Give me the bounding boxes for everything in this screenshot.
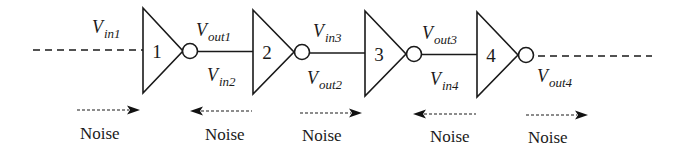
noise-label: Noise <box>430 127 470 146</box>
noise-label: Noise <box>205 125 245 144</box>
noise-label: Noise <box>302 126 342 145</box>
gate-number: 3 <box>374 44 384 65</box>
voltage-label-vout1: Vout1 <box>196 20 231 44</box>
noise-indicator-4: Noise <box>413 110 476 147</box>
noise-label: Noise <box>528 128 568 147</box>
voltage-label-vout3: Vout3 <box>422 23 458 47</box>
wires <box>33 50 652 56</box>
inverter-triangle-icon <box>143 8 183 93</box>
diagram-canvas: 1234 Vin1Vout1Vin2Vin3Vout2Vout3Vin4Vout… <box>0 0 686 154</box>
inverter-triangle-icon <box>365 11 406 96</box>
inverter-triangle-icon <box>253 10 294 94</box>
gate-number: 4 <box>486 45 496 66</box>
inversion-bubble-icon <box>407 47 422 62</box>
inversion-bubble-icon <box>183 44 198 59</box>
voltage-label-vout2: Vout2 <box>307 68 343 92</box>
noise-indicator-1: Noise <box>77 106 140 144</box>
voltage-label-vout4: Vout4 <box>537 66 573 90</box>
inverter-triangle-icon <box>477 12 518 97</box>
noise-indicator-3: Noise <box>300 109 362 146</box>
inversion-bubble-icon <box>295 45 310 60</box>
inverter-gate-4: 4 <box>477 12 534 97</box>
inverter-chain-diagram: 1234 Vin1Vout1Vin2Vin3Vout2Vout3Vin4Vout… <box>0 0 686 154</box>
voltage-label-vin1: Vin1 <box>92 17 121 41</box>
noise-label: Noise <box>80 124 120 143</box>
inverter-gate-2: 2 <box>253 10 310 94</box>
inversion-bubble-icon <box>519 48 534 63</box>
gate-number: 2 <box>262 42 272 63</box>
inverter-gate-1: 1 <box>143 8 198 93</box>
noise-indicator-2: Noise <box>190 107 252 145</box>
voltage-label-vin4: Vin4 <box>430 69 459 93</box>
inverter-gate-3: 3 <box>365 11 422 96</box>
voltage-label-vin3: Vin3 <box>313 21 342 45</box>
voltage-label-vin2: Vin2 <box>207 65 236 89</box>
noise-indicators: NoiseNoiseNoiseNoiseNoise <box>77 106 588 148</box>
noise-indicator-5: Noise <box>526 111 588 148</box>
gate-number: 1 <box>152 41 162 62</box>
